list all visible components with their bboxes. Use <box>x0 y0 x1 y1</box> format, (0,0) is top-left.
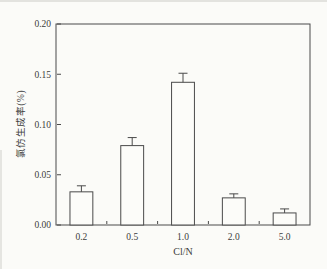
y-tick-label: 0.15 <box>34 70 51 80</box>
x-tick-label: 0.5 <box>126 232 138 242</box>
y-tick-label: 0.20 <box>34 19 51 29</box>
bar-1.0 <box>172 82 195 225</box>
x-tick-label: 0.2 <box>75 232 87 242</box>
bar-5.0 <box>273 213 296 225</box>
bar-0.5 <box>121 146 144 225</box>
y-tick-label: 0.10 <box>34 120 51 130</box>
x-tick-label: 2.0 <box>228 232 240 242</box>
y-tick-label: 0.05 <box>34 170 51 180</box>
x-axis-title: Cl/N <box>143 245 223 259</box>
chart-figure: 0.000.050.100.150.200.20.51.02.05.0 氯仿生成… <box>0 0 327 269</box>
y-axis-title: 氯仿生成率(%) <box>13 64 29 184</box>
x-tick-label: 1.0 <box>177 232 189 242</box>
bar-2.0 <box>222 198 245 225</box>
bar-0.2 <box>70 192 93 225</box>
bar-chart-svg: 0.000.050.100.150.200.20.51.02.05.0 <box>0 0 327 269</box>
y-tick-label: 0.00 <box>34 220 51 230</box>
x-tick-label: 5.0 <box>279 232 291 242</box>
